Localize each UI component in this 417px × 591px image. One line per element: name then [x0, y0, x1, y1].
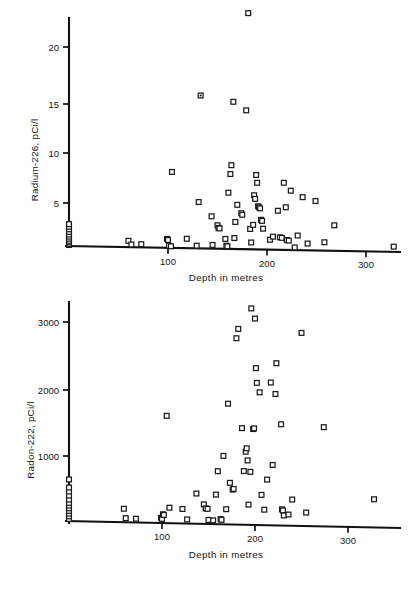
data-point-marker: [227, 480, 232, 485]
data-point-marker: [67, 477, 72, 482]
radium-x-axis-title: Depth in metres: [189, 272, 263, 283]
data-point-marker: [261, 226, 266, 231]
data-point-marker: [224, 507, 229, 512]
data-point-marker: [246, 502, 251, 507]
data-point-marker: [217, 226, 222, 231]
data-point-marker: [231, 487, 236, 492]
x-tick-label: 200: [247, 533, 263, 544]
data-point-marker: [372, 497, 377, 502]
y-tick-label: 20: [48, 42, 59, 53]
data-point-marker: [265, 477, 270, 482]
data-point-marker: [221, 453, 226, 458]
data-point-marker: [129, 242, 134, 247]
radium-226-scatter-plot: 5101520 100200300 Radium-226, pCi/l Dept…: [0, 0, 417, 295]
data-point-marker: [248, 469, 253, 474]
data-point-marker: [254, 366, 259, 371]
data-point-marker: [332, 223, 337, 228]
data-point-marker: [245, 458, 250, 463]
data-point-marker: [288, 188, 293, 193]
y-tick-label: 2000: [38, 385, 59, 396]
y-tick-label: 1000: [38, 451, 59, 462]
data-point-marker: [228, 172, 233, 177]
data-point-marker: [240, 426, 245, 431]
data-point-marker: [240, 212, 245, 217]
radium-y-ticks: 5101520: [48, 42, 69, 209]
data-point-marker: [299, 331, 304, 336]
data-point-marker: [194, 243, 199, 248]
radium-y-axis-title: Radium-226, pCi/l: [29, 119, 40, 202]
data-point-marker: [249, 306, 254, 311]
data-point-marker: [205, 506, 210, 511]
data-point-marker: [211, 518, 216, 523]
data-point-marker: [292, 245, 297, 250]
data-point-marker: [233, 220, 238, 225]
data-point-marker: [283, 205, 288, 210]
data-point-marker: [252, 426, 257, 431]
data-point-marker: [226, 401, 231, 406]
data-point-marker: [164, 413, 169, 418]
radon-axes: [66, 302, 400, 528]
data-point-marker: [226, 190, 231, 195]
data-point-marker: [167, 505, 172, 510]
data-point-marker: [321, 425, 326, 430]
data-point-marker: [170, 170, 175, 175]
data-point-marker: [67, 485, 72, 490]
data-point-marker: [260, 218, 265, 223]
data-point-marker: [253, 197, 258, 202]
data-point-marker: [286, 238, 291, 243]
data-point-marker: [235, 202, 240, 207]
data-point-marker: [273, 392, 278, 397]
data-point-marker: [275, 208, 280, 213]
data-point-marker: [214, 492, 219, 497]
data-point-marker: [262, 507, 267, 512]
data-point-marker: [286, 512, 291, 517]
data-point-marker: [196, 200, 201, 205]
x-tick-label: 200: [259, 258, 275, 269]
data-point-marker: [290, 497, 295, 502]
data-point-marker: [279, 422, 284, 427]
data-point-marker: [281, 508, 286, 513]
data-point-marker: [257, 390, 262, 395]
data-point-marker: [271, 234, 276, 239]
y-tick-label: 5: [54, 198, 59, 209]
data-point-marker: [225, 244, 230, 249]
data-point-marker: [161, 513, 166, 518]
y-tick-label: 15: [48, 99, 59, 110]
x-tick-label: 300: [340, 535, 356, 546]
radium-plot-canvas: 5101520 100200300 Radium-226, pCi/l Dept…: [0, 0, 417, 295]
data-point-marker: [274, 361, 279, 366]
data-point-marker: [121, 506, 126, 511]
data-point-marker: [232, 236, 237, 241]
data-point-marker: [139, 242, 144, 247]
data-point-marker: [268, 380, 273, 385]
radium-x-axis: [66, 246, 400, 252]
data-point-marker: [184, 236, 189, 241]
data-point-marker: [234, 336, 239, 341]
data-point-marker: [244, 108, 249, 113]
data-point-marker: [313, 199, 318, 204]
data-point-marker: [249, 240, 254, 245]
data-point-marker: [215, 469, 220, 474]
data-point-marker: [67, 222, 72, 227]
data-point-marker: [322, 240, 327, 245]
data-point-marker: [241, 469, 246, 474]
data-point-marker: [236, 327, 241, 332]
data-point-marker: [185, 517, 190, 522]
data-point-marker: [255, 180, 260, 185]
data-point-marker: [169, 244, 174, 249]
data-point-marker: [270, 463, 275, 468]
radon-x-axis: [66, 521, 400, 528]
data-point-marker: [300, 195, 305, 200]
x-tick-label: 100: [154, 531, 170, 542]
data-point-marker: [223, 237, 228, 242]
data-point-marker: [258, 206, 263, 211]
radon-y-axis-title: Radon-222, pCi/l: [25, 401, 36, 479]
data-point-marker: [210, 243, 215, 248]
radium-axes: [66, 18, 400, 252]
data-point-marker: [259, 492, 264, 497]
data-point-marker: [219, 517, 224, 522]
data-point-marker: [251, 222, 256, 227]
data-point-marker: [244, 446, 249, 451]
radon-plot-canvas: 100020003000 100200300 Radon-222, pCi/l …: [0, 290, 417, 591]
radon-222-scatter-plot: 100020003000 100200300 Radon-222, pCi/l …: [0, 290, 417, 591]
